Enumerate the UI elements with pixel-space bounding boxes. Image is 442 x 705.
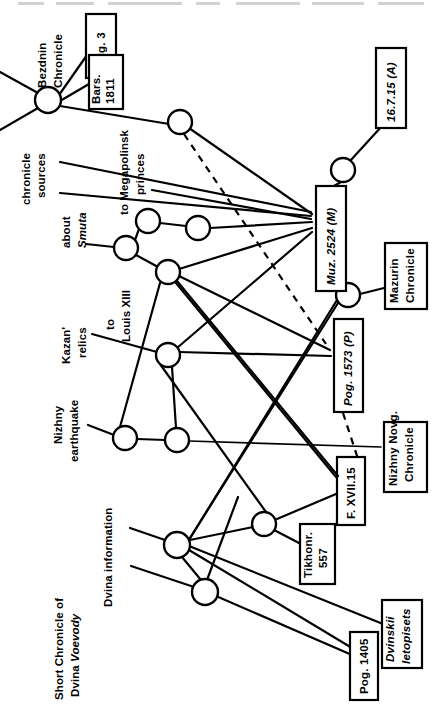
- label-kazan-relics-2: relics: [76, 327, 88, 358]
- box-muz-2524[interactable]: Muz. 2524 (M): [316, 186, 346, 291]
- label-dvina-information: Dvina information: [102, 508, 114, 607]
- edge-n8-n9: [137, 439, 165, 440]
- box-layer: Dolg. 3 Bars. 1811 16.7.15 (A) Muz. 2524…: [86, 14, 427, 700]
- edge-n4-muz2524: [210, 222, 312, 228]
- edge-fxvii15-n12: [277, 494, 336, 519]
- box-pog-1405[interactable]: Pog. 1405: [350, 632, 378, 700]
- edge-dvinainfo2-n15: [131, 566, 194, 587]
- stemma-diagram: Dolg. 3 Bars. 1811 16.7.15 (A) Muz. 2524…: [0, 0, 442, 705]
- box-dvinskii-letopisets[interactable]: Dvinskii letopisets: [382, 600, 422, 668]
- edge-n11-mazurin: [360, 288, 384, 294]
- box-tikhonr-557[interactable]: Tikhonr. 557: [300, 524, 335, 584]
- node-n2[interactable]: [168, 110, 192, 134]
- edge-overlay-n6-fxvii: [177, 281, 338, 476]
- box-muz-2524-label: Muz. 2524 (M): [325, 208, 337, 285]
- box-16-7-15-a[interactable]: 16.7.15 (A): [376, 48, 406, 128]
- edge-n12-tikhonr: [274, 530, 301, 544]
- box-bars1811-label-2: 1811: [104, 78, 116, 104]
- edge-n6-fxvii15: [176, 283, 336, 477]
- box-pog-1573[interactable]: Pog. 1573 (P): [334, 319, 363, 412]
- edge-n15-n14: [207, 497, 238, 580]
- edge-n13-n15: [182, 557, 201, 580]
- node-n5[interactable]: [114, 236, 138, 260]
- box-tikhonr-557-label: Tikhonr.: [302, 532, 314, 578]
- node-n3[interactable]: [136, 209, 160, 233]
- box-16-7-15-a-label: 16.7.15 (A): [385, 62, 397, 122]
- edge-n13-dvinskii: [189, 546, 383, 624]
- box-f-xvii-15-label: F. XVII.15: [345, 467, 357, 519]
- box-f-xvii-15[interactable]: F. XVII.15: [337, 457, 365, 525]
- label-to-megapolinsk-princes-2: princes: [134, 153, 146, 195]
- edge-n7-pog1573: [179, 352, 331, 356]
- node-n4[interactable]: [186, 216, 210, 240]
- box-mazurin-chronicle-label: Mazurin: [388, 258, 400, 303]
- box-mazurin-chronicle[interactable]: Mazurin Chronicle: [385, 243, 427, 309]
- label-chronicle-sources: chronicle: [20, 153, 32, 205]
- label-bezdnin-chronicle: Bezdnin: [36, 43, 48, 88]
- label-chronicle-sources-2: sources: [35, 153, 47, 198]
- box-dvinskii-letopisets-label: Dvinskii: [384, 616, 396, 662]
- node-n8[interactable]: [113, 426, 137, 450]
- label-bezdnin-chronicle-2: Chronicle: [52, 34, 64, 88]
- edge-stub-lower: [0, 108, 38, 130]
- node-n10[interactable]: [331, 158, 355, 182]
- box-dvinskii-letopisets-label-2: letopisets: [400, 608, 412, 664]
- label-to-megapolinsk-princes: to Megapolinsk: [118, 129, 130, 215]
- box-tikhonr-557-label-2: 557: [317, 548, 329, 568]
- free-label-layer: Bezdnin Chronicle chronicle sources to M…: [20, 34, 146, 700]
- box-mazurin-chronicle-label-2: Chronicle: [404, 248, 416, 303]
- label-short-chronicle-of-dvina-voevody: Short Chronicle of: [53, 598, 65, 700]
- node-n7[interactable]: [156, 343, 180, 367]
- label-about-smuta-2: Smuta: [76, 212, 88, 248]
- edge-smuta-n5: [86, 244, 114, 247]
- edge-n15-pog1405: [216, 596, 352, 655]
- label-kazan-relics: Kazan': [60, 327, 72, 364]
- label-about-smuta: about: [60, 216, 72, 248]
- edge-n5-n6: [136, 255, 158, 267]
- edge-stub-upper: [0, 72, 38, 93]
- node-n15[interactable]: [192, 579, 218, 605]
- label-nizhny-earthquake-2: earthquake: [68, 400, 80, 462]
- box-nizhny-novg-chronicle-label: Nizhny Novg.: [387, 411, 399, 486]
- box-nizhny-novg-chronicle-label-2: Chronicle: [403, 427, 415, 482]
- edge-n7-n9: [172, 367, 176, 428]
- edge-dvinainfo-n13: [130, 528, 165, 540]
- box-pog-1573-label: Pog. 1573 (P): [342, 331, 354, 406]
- label-to-louis-xiii-2: Louis XIII: [120, 290, 132, 342]
- node-n12[interactable]: [252, 512, 276, 536]
- cropped-header-remnant: [18, 2, 424, 5]
- edge-n10-a16715: [350, 126, 382, 161]
- label-to-louis-xiii: to: [104, 319, 116, 330]
- node-n1[interactable]: [35, 87, 61, 113]
- edge-n3-n5: [135, 229, 139, 240]
- box-bars1811[interactable]: Bars. 1811: [89, 55, 123, 109]
- box-nizhny-novg-chronicle[interactable]: Nizhny Novg. Chronicle: [384, 411, 427, 492]
- edge-n3-n4: [160, 223, 186, 226]
- box-bars1811-label: Bars.: [90, 74, 102, 104]
- label-short-chronicle-of-dvina-voevody-2: Dvina Voevody: [69, 613, 81, 697]
- node-n9[interactable]: [165, 428, 189, 452]
- box-pog-1405-label: Pog. 1405: [358, 638, 370, 694]
- node-n13[interactable]: [164, 532, 190, 558]
- label-nizhny-earthquake: Nizhny: [52, 405, 64, 444]
- edge-nizhnyquake-n8: [88, 425, 114, 435]
